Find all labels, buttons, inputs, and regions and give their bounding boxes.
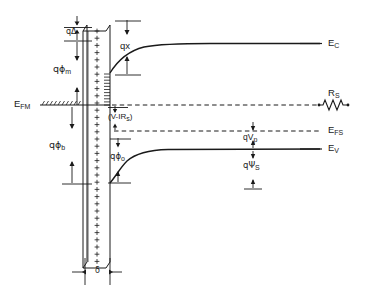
label-e-fm: EFM [14, 99, 30, 110]
label-q-phi-b: qϕb [49, 140, 65, 151]
valence-band-curve [110, 149, 320, 183]
label-v-minus-irs: (V-IRs) [108, 113, 132, 122]
metal-fermi-level-line [40, 101, 110, 105]
label-e-c: EC [328, 38, 339, 49]
label-r-s: RS [328, 88, 340, 99]
label-q-phi-m: qϕm [53, 64, 71, 75]
q-phi-m-dimension [75, 42, 80, 105]
conduction-band-curve [110, 44, 320, 74]
label-e-fs: EFS [328, 125, 343, 136]
resistor-zigzag-icon [318, 100, 350, 110]
label-delta: δ [95, 267, 100, 275]
label-e-v: EV [328, 143, 339, 154]
label-q-v-p: qVp [243, 133, 257, 143]
label-q-phi-o: qϕo [110, 152, 125, 162]
label-q-delta: qΔ [66, 28, 77, 36]
plus-charge-column-icon [95, 29, 110, 264]
label-q-psi-s: qΨS [243, 161, 260, 171]
label-q-chi: qx [120, 41, 130, 51]
band-diagram-figure: qΔ qϕm qx qϕb qϕo EFM EC RS EFS EV (V-IR… [0, 0, 369, 293]
right-level-leads [300, 44, 322, 150]
